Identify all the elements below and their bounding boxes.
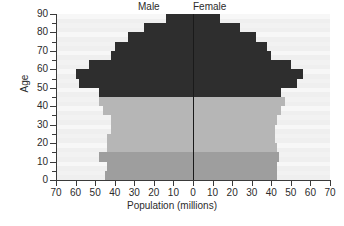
y-axis-tick: [50, 14, 56, 15]
y-axis-tick-label: 0: [24, 175, 48, 185]
x-axis-tick-label: 20: [144, 187, 164, 198]
y-axis-minor-tick: [52, 42, 56, 43]
bar-male-45-49: [99, 88, 193, 97]
center-axis-line: [193, 14, 194, 180]
x-axis-tick: [213, 181, 214, 186]
x-axis-tick-label: 40: [261, 187, 281, 198]
bar-male-15-19: [107, 143, 193, 152]
bar-male-20-24: [107, 134, 193, 143]
x-axis-tick-label: 10: [163, 187, 183, 198]
bar-male-85-89: [166, 14, 193, 23]
y-axis-tick-label: 40: [24, 101, 48, 111]
bar-male-70-74: [115, 42, 193, 51]
bar-female-25-29: [193, 125, 275, 134]
x-axis-tick: [193, 181, 194, 186]
x-axis-tick: [56, 181, 57, 186]
y-axis-tick-label: 10: [24, 157, 48, 167]
bar-female-30-34: [193, 115, 277, 124]
x-axis-tick: [252, 181, 253, 186]
bar-female-80-84: [193, 23, 240, 32]
y-axis-minor-tick: [52, 23, 56, 24]
y-axis-minor-tick: [52, 152, 56, 153]
y-axis-minor-tick: [52, 134, 56, 135]
bar-male-80-84: [144, 23, 193, 32]
x-axis-tick-label: 40: [105, 187, 125, 198]
female-series-label: Female: [193, 1, 226, 12]
bar-female-35-39: [193, 106, 281, 115]
y-axis-tick: [50, 32, 56, 33]
male-series-label: Male: [138, 1, 160, 12]
x-axis-tick: [291, 181, 292, 186]
y-axis-minor-tick: [52, 97, 56, 98]
bar-male-60-64: [89, 60, 193, 69]
x-axis-tick-label: 50: [281, 187, 301, 198]
bar-male-5-9: [107, 162, 193, 171]
y-axis-tick-label: 90: [24, 9, 48, 19]
bar-male-10-14: [99, 152, 193, 161]
x-axis-tick: [115, 181, 116, 186]
x-axis-tick-label: 60: [66, 187, 86, 198]
x-axis-tick: [173, 181, 174, 186]
x-axis-tick-label: 70: [46, 187, 66, 198]
bar-male-40-44: [99, 97, 193, 106]
bar-male-65-69: [111, 51, 193, 60]
y-axis-tick: [50, 69, 56, 70]
bar-female-0-4: [193, 171, 277, 180]
y-axis-minor-tick: [52, 60, 56, 61]
bar-male-35-39: [103, 106, 193, 115]
bar-female-85-89: [193, 14, 220, 23]
y-axis-minor-tick: [52, 115, 56, 116]
x-axis-tick: [310, 181, 311, 186]
bar-male-50-54: [79, 79, 193, 88]
x-axis-tick-label: 30: [124, 187, 144, 198]
y-axis-tick: [50, 125, 56, 126]
x-axis-tick: [154, 181, 155, 186]
x-axis-tick-label: 10: [203, 187, 223, 198]
y-axis-tick-label: 60: [24, 64, 48, 74]
bar-female-10-14: [193, 152, 279, 161]
x-axis-tick: [232, 181, 233, 186]
y-axis-line: [56, 14, 57, 181]
bar-male-55-59: [76, 69, 193, 78]
x-axis-tick: [134, 181, 135, 186]
bar-female-70-74: [193, 42, 267, 51]
y-axis-tick: [50, 143, 56, 144]
x-axis-tick-label: 60: [300, 187, 320, 198]
y-axis-tick: [50, 51, 56, 52]
y-axis-tick-label: 80: [24, 27, 48, 37]
x-axis-tick: [95, 181, 96, 186]
x-axis-tick-label: 20: [222, 187, 242, 198]
bar-male-75-79: [128, 32, 193, 41]
y-axis-tick-label: 30: [24, 120, 48, 130]
bar-female-20-24: [193, 134, 275, 143]
y-axis-tick: [50, 162, 56, 163]
x-axis-tick-label: 50: [85, 187, 105, 198]
x-axis-title: Population (millions): [0, 200, 344, 211]
y-axis-minor-tick: [52, 171, 56, 172]
y-axis-tick: [50, 88, 56, 89]
bar-female-15-19: [193, 143, 277, 152]
y-axis-tick-label: 50: [24, 83, 48, 93]
bar-female-60-64: [193, 60, 291, 69]
bar-female-5-9: [193, 162, 277, 171]
x-axis-tick-label: 70: [320, 187, 340, 198]
bar-female-65-69: [193, 51, 271, 60]
x-axis-tick-label: 30: [242, 187, 262, 198]
x-axis-tick: [330, 181, 331, 186]
x-axis-tick: [76, 181, 77, 186]
y-axis-tick-label: 20: [24, 138, 48, 148]
x-axis-tick: [271, 181, 272, 186]
bar-male-25-29: [111, 125, 193, 134]
y-axis-minor-tick: [52, 79, 56, 80]
bar-female-45-49: [193, 88, 281, 97]
y-axis-tick: [50, 106, 56, 107]
population-pyramid-chart: Male Female Age 0102030405060708090 7060…: [0, 0, 344, 226]
y-axis-tick-label: 70: [24, 46, 48, 56]
bar-male-0-4: [105, 171, 193, 180]
x-axis-tick-label: 0: [183, 187, 203, 198]
bar-female-75-79: [193, 32, 256, 41]
bar-male-30-34: [111, 115, 193, 124]
plot-area: [56, 14, 330, 180]
bar-female-55-59: [193, 69, 303, 78]
bar-female-40-44: [193, 97, 285, 106]
